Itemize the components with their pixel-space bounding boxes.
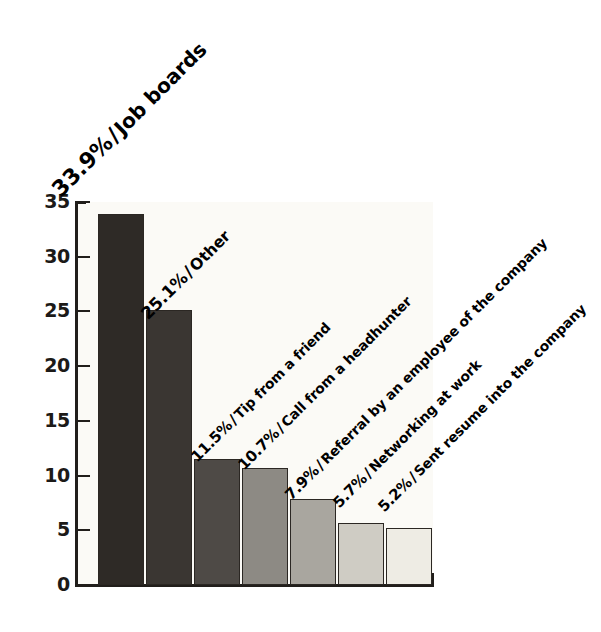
bar [386, 528, 432, 585]
bar [290, 499, 336, 585]
callout-separator: / [100, 122, 126, 148]
bar [338, 523, 384, 585]
y-tick-label: 10 [28, 464, 70, 486]
callout-category-name: Sent resume into the company [411, 301, 590, 480]
bar [146, 310, 192, 585]
y-tick-label: 35 [28, 190, 70, 212]
y-axis-tick-labels: 05101520253035 [22, 0, 70, 632]
bar [194, 459, 240, 585]
y-tick-label: 5 [28, 518, 70, 540]
callout-label: 33.9%/Job boards [48, 38, 211, 201]
y-tick-label: 30 [28, 245, 70, 267]
bars-container [76, 202, 433, 585]
bar [242, 468, 288, 585]
callout-category-name: Job boards [109, 38, 211, 140]
y-tick-label: 25 [28, 299, 70, 321]
y-tick-label: 0 [28, 573, 70, 595]
bar [98, 214, 144, 585]
y-tick-label: 15 [28, 409, 70, 431]
y-tick-label: 20 [28, 354, 70, 376]
bar-chart: 05101520253035 33.9%/Job boards25.1%/Oth… [0, 0, 601, 632]
